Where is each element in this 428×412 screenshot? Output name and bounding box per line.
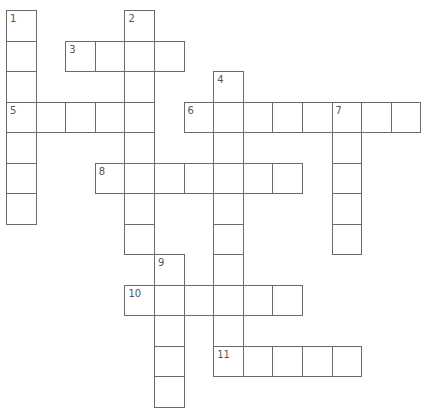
- crossword-cell[interactable]: [124, 163, 155, 195]
- crossword-cell[interactable]: [124, 132, 155, 164]
- crossword-cell[interactable]: [154, 285, 185, 317]
- clue-number: 4: [217, 75, 223, 85]
- crossword-cell[interactable]: 1: [6, 10, 37, 42]
- crossword-cell[interactable]: [361, 102, 392, 134]
- crossword-cell[interactable]: [154, 346, 185, 378]
- crossword-cell[interactable]: [243, 346, 274, 378]
- crossword-cell[interactable]: [272, 346, 303, 378]
- crossword-cell[interactable]: 6: [184, 102, 215, 134]
- crossword-cell[interactable]: [272, 163, 303, 195]
- clue-number: 2: [128, 14, 134, 24]
- crossword-cell[interactable]: [332, 132, 363, 164]
- crossword-grid: 1523411678910: [0, 0, 428, 412]
- crossword-cell[interactable]: [95, 41, 126, 73]
- crossword-cell[interactable]: [243, 163, 274, 195]
- crossword-cell[interactable]: [154, 315, 185, 347]
- clue-number: 6: [188, 106, 194, 116]
- crossword-cell[interactable]: 3: [65, 41, 96, 73]
- crossword-cell[interactable]: [213, 102, 244, 134]
- crossword-cell[interactable]: [272, 285, 303, 317]
- crossword-cell[interactable]: [272, 102, 303, 134]
- crossword-cell[interactable]: [124, 193, 155, 225]
- crossword-cell[interactable]: [154, 41, 185, 73]
- crossword-cell[interactable]: [6, 193, 37, 225]
- crossword-cell[interactable]: [302, 346, 333, 378]
- crossword-cell[interactable]: [154, 163, 185, 195]
- crossword-cell[interactable]: [36, 102, 67, 134]
- crossword-cell[interactable]: [154, 376, 185, 408]
- crossword-cell[interactable]: [332, 193, 363, 225]
- crossword-cell[interactable]: [332, 224, 363, 256]
- crossword-cell[interactable]: [213, 254, 244, 286]
- crossword-cell[interactable]: [124, 41, 155, 73]
- crossword-cell[interactable]: 11: [213, 346, 244, 378]
- crossword-cell[interactable]: [124, 224, 155, 256]
- crossword-cell[interactable]: [184, 285, 215, 317]
- clue-number: 7: [336, 106, 342, 116]
- crossword-cell[interactable]: [213, 285, 244, 317]
- clue-number: 3: [69, 45, 75, 55]
- clue-number: 8: [99, 167, 105, 177]
- crossword-cell[interactable]: [332, 163, 363, 195]
- crossword-cell[interactable]: [6, 71, 37, 103]
- clue-number: 10: [128, 289, 141, 299]
- crossword-cell[interactable]: [243, 285, 274, 317]
- clue-number: 5: [10, 106, 16, 116]
- crossword-cell[interactable]: [332, 346, 363, 378]
- crossword-cell[interactable]: 10: [124, 285, 155, 317]
- crossword-cell[interactable]: [213, 193, 244, 225]
- clue-number: 11: [217, 350, 230, 360]
- crossword-cell[interactable]: [213, 163, 244, 195]
- crossword-cell[interactable]: [65, 102, 96, 134]
- crossword-cell[interactable]: [184, 163, 215, 195]
- crossword-cell[interactable]: 5: [6, 102, 37, 134]
- crossword-cell[interactable]: 8: [95, 163, 126, 195]
- crossword-cell[interactable]: [391, 102, 422, 134]
- crossword-cell[interactable]: [124, 102, 155, 134]
- crossword-cell[interactable]: [6, 132, 37, 164]
- crossword-cell[interactable]: [213, 132, 244, 164]
- crossword-cell[interactable]: [6, 41, 37, 73]
- crossword-cell[interactable]: [124, 71, 155, 103]
- crossword-cell[interactable]: [302, 102, 333, 134]
- clue-number: 1: [10, 14, 16, 24]
- crossword-cell[interactable]: [213, 224, 244, 256]
- crossword-cell[interactable]: 4: [213, 71, 244, 103]
- crossword-cell[interactable]: 2: [124, 10, 155, 42]
- crossword-cell[interactable]: [243, 102, 274, 134]
- crossword-cell[interactable]: 7: [332, 102, 363, 134]
- clue-number: 9: [158, 258, 164, 268]
- crossword-cell[interactable]: [213, 315, 244, 347]
- crossword-cell[interactable]: [95, 102, 126, 134]
- crossword-cell[interactable]: 9: [154, 254, 185, 286]
- crossword-cell[interactable]: [6, 163, 37, 195]
